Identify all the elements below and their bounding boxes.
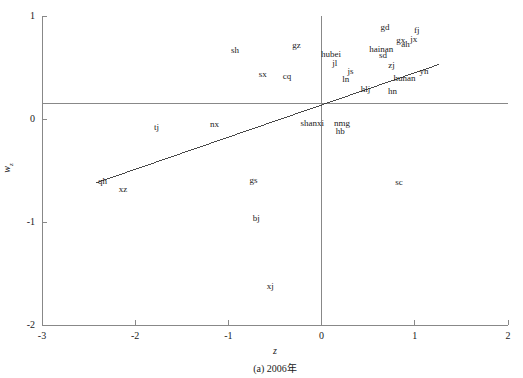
point-label-hlj: hlj [361,85,371,94]
point-label-ah: ah [401,39,410,48]
point-label-shanxi: shanxi [301,119,325,128]
point-label-qh: qh [98,176,107,185]
point-label-yn: yn [420,66,429,75]
point-label-ln: ln [342,74,349,83]
x-axis-title: z [273,345,277,356]
x-tick-label: -2 [131,331,139,341]
point-label-gs: gs [250,175,258,184]
y-axis-title: wz [1,163,15,172]
y-axis-title-main: w [1,166,12,173]
point-label-xj: xj [267,281,274,290]
x-tick-label: -1 [224,331,232,341]
point-label-zj: zj [388,61,395,70]
figure-panel: shgzgdfjgxjxahhubeihainansdjljszjynsxcql… [0,0,523,378]
point-label-sx: sx [259,69,267,78]
point-label-hb: hb [336,127,345,136]
point-label-sd: sd [379,51,387,60]
point-label-nx: nx [210,120,219,129]
point-label-cq: cq [283,71,292,80]
plot-axes [42,16,508,325]
point-label-jl: jl [332,59,337,68]
point-label-hn: hn [388,87,397,96]
reference-lines [42,16,508,325]
y-tick-label: 0 [30,114,35,124]
point-label-gz: gz [292,40,301,49]
figure-caption: (a) 2006年 [253,360,297,375]
regression-line [96,64,439,182]
x-tick-label: 0 [319,331,324,341]
point-label-xz: xz [119,185,128,194]
regression-line [96,64,439,182]
x-tick-label: 2 [506,331,511,341]
point-label-jx: jx [410,34,417,43]
plot-canvas [0,0,523,378]
y-tick-label: -2 [27,320,35,330]
point-label-hunan: hunan [394,73,416,82]
point-label-sh: sh [231,45,239,54]
point-label-bj: bj [253,213,260,222]
point-label-gd: gd [380,23,389,32]
point-label-sc: sc [395,177,403,186]
point-label-tj: tj [154,123,159,132]
x-tick-label: 1 [412,331,417,341]
y-tick-label: 1 [30,11,35,21]
y-axis-title-subscript: z [7,163,15,166]
x-tick-label: -3 [38,331,46,341]
y-tick-label: -1 [27,217,35,227]
point-label-hubei: hubei [321,50,341,59]
